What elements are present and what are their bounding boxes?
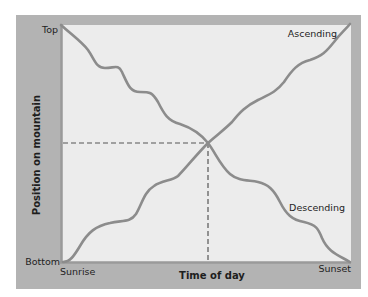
chart: Top Bottom Sunrise Sunset Time of day Po… xyxy=(0,0,368,297)
x-axis-title: Time of day xyxy=(179,270,245,281)
ascending-label: Ascending xyxy=(288,28,337,39)
y-tick-bottom: Bottom xyxy=(25,256,60,267)
y-tick-top: Top xyxy=(41,24,58,35)
y-axis-title: Position on mountain xyxy=(31,95,42,215)
x-tick-sunset: Sunset xyxy=(318,263,351,274)
x-tick-sunrise: Sunrise xyxy=(60,266,96,277)
descending-label: Descending xyxy=(289,202,345,213)
